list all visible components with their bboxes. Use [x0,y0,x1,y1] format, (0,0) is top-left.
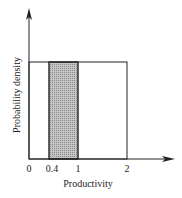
x-tick-1: 1 [76,164,81,174]
chart: 0 0.4 1 2 Productivity Probability densi… [0,0,182,198]
y-axis-label: Probability density [11,57,22,133]
x-axis-label: Productivity [63,178,112,189]
x-tick-2: 2 [125,164,130,174]
x-tick-0: 0 [27,164,32,174]
shaded-region [49,62,78,159]
x-tick-0-4: 0.4 [46,164,59,174]
